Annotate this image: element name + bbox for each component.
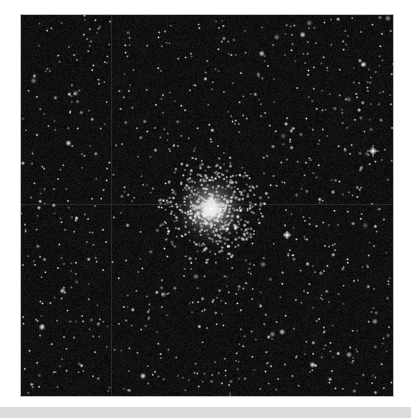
astronomical-image: Black-and-white telescope image of a glo…	[21, 15, 393, 396]
star-field	[21, 15, 393, 396]
bottom-bar	[0, 407, 411, 418]
